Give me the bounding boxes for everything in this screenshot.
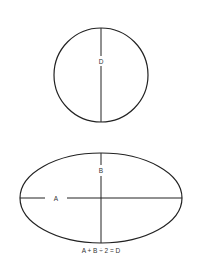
circle-figure: D bbox=[54, 28, 148, 122]
diameter-label: D bbox=[99, 58, 104, 65]
diagram-canvas: D A B A + B ÷ 2 = D bbox=[0, 0, 202, 274]
ellipse-figure: A B bbox=[20, 153, 182, 243]
formula-caption: A + B ÷ 2 = D bbox=[82, 247, 121, 254]
major-axis-label: A bbox=[54, 195, 59, 202]
minor-axis-label: B bbox=[99, 167, 103, 174]
